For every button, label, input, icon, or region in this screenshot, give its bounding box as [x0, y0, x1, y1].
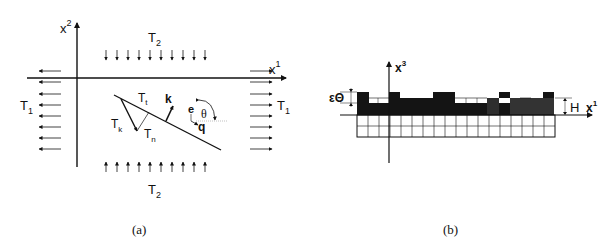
rough-step-grey — [487, 98, 499, 115]
figure: x2 x1 T2 — [0, 0, 616, 239]
rough-step-dark — [357, 103, 455, 115]
height-label: H — [570, 100, 579, 115]
right-load-label: T1 — [277, 98, 290, 116]
direction-e-label: e — [188, 103, 194, 115]
traction-normal-label: Tn — [144, 127, 156, 144]
direction-q-vector — [191, 121, 198, 125]
top-load-arrows — [106, 50, 205, 60]
traction-tangent-label: Tt — [138, 91, 148, 107]
traction-total-label: Tk — [111, 117, 123, 134]
left-load-label: T1 — [20, 98, 33, 116]
x3-axis-label: x3 — [395, 59, 407, 75]
left-load-arrows — [39, 71, 61, 149]
bottom-load-label: T2 — [148, 182, 161, 200]
direction-q-label: q — [198, 120, 205, 134]
panel-a: x2 x1 T2 — [20, 18, 290, 237]
bottom-load-arrows — [106, 162, 205, 172]
x2-axis-label: x2 — [60, 18, 72, 36]
rough-step-grey-2 — [510, 98, 554, 115]
normal-vector-k — [166, 106, 173, 121]
substrate-grid — [357, 115, 555, 137]
angle-label: θ — [201, 107, 207, 121]
right-load-arrows — [250, 71, 272, 149]
caption-b: (b) — [443, 222, 458, 237]
panel-b: x3 x1 εΘ H (b) — [329, 59, 598, 237]
x1-axis-label-b: x1 — [586, 99, 598, 115]
roughness-label: εΘ — [329, 91, 344, 105]
traction-total-vector — [121, 99, 137, 131]
top-load-label: T2 — [148, 30, 161, 48]
caption-a: (a) — [132, 222, 146, 237]
normal-vector-label: k — [165, 92, 172, 106]
x1-axis-label: x1 — [269, 59, 281, 77]
